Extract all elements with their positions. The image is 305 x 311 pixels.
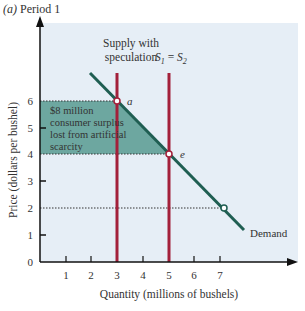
- x-tick-7: 7: [217, 269, 223, 281]
- x-tick-6: 6: [191, 269, 197, 281]
- y-axis-title: Price (dollars per bushel): [7, 102, 20, 218]
- x-tick-4: 4: [140, 269, 146, 281]
- svg-text:$8 million: $8 million: [50, 105, 94, 116]
- supply-speculation-label-2: speculation: [105, 51, 158, 64]
- x-tick-2: 2: [88, 269, 94, 281]
- y-axis-arrow-icon: [36, 16, 44, 27]
- supply-speculation-label-1: Supply with: [103, 37, 159, 50]
- svg-text:scarcity: scarcity: [50, 141, 83, 152]
- chart: 0 1 2 3 4 5 6 1 2 3 4 5 6 7 Quantity (mi…: [0, 0, 305, 311]
- x-axis-title: Quantity (millions of bushels): [100, 288, 238, 301]
- y-tick-6: 6: [28, 95, 34, 107]
- point-demand-price-2: [221, 205, 227, 211]
- point-e-label: e: [180, 148, 185, 160]
- x-tick-3: 3: [114, 269, 120, 281]
- x-tick-5: 5: [166, 269, 172, 281]
- y-tick-3: 3: [28, 175, 34, 187]
- y-tick-0: 0: [28, 256, 34, 268]
- y-tick-5: 5: [28, 122, 34, 134]
- point-a-label: a: [127, 95, 133, 107]
- point-e: [166, 151, 172, 157]
- y-tick-1: 1: [28, 229, 34, 241]
- y-tick-4: 4: [28, 148, 34, 160]
- svg-text:lost from artificial: lost from artificial: [50, 129, 126, 140]
- y-tick-2: 2: [28, 202, 34, 214]
- point-a: [114, 98, 120, 104]
- demand-label: Demand: [250, 227, 288, 239]
- svg-text:consumer surplus: consumer surplus: [50, 117, 124, 128]
- x-tick-1: 1: [63, 269, 69, 281]
